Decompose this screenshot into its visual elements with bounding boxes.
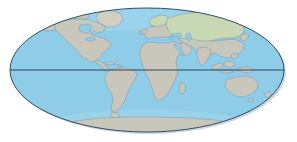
landmass-arctic-island-b — [58, 15, 70, 19]
landmass-asia — [166, 12, 244, 42]
landmass-caribbean-island-small — [117, 65, 122, 67]
world-map-figure: World map Mollweide (elliptical) project… — [0, 0, 297, 142]
landmass-tasmania — [248, 98, 253, 102]
world-map-canvas — [0, 0, 297, 142]
